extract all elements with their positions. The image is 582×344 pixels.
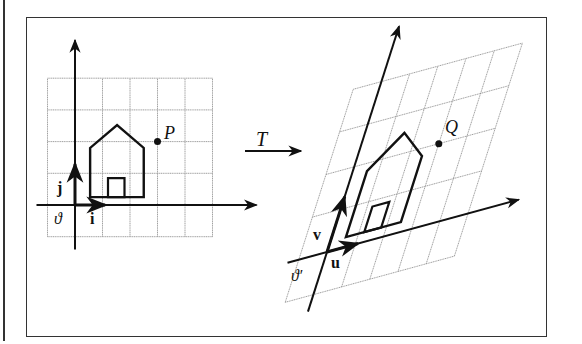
transform-label: T — [256, 129, 267, 149]
left-house-shape — [90, 125, 161, 197]
basis-v-label: v — [313, 227, 321, 243]
basis-i-label: i — [90, 211, 94, 227]
transformed-y-axis — [308, 26, 399, 311]
house-outline — [90, 125, 144, 197]
basis-j-label: j — [57, 180, 62, 196]
point-p-label: P — [164, 124, 175, 142]
grid-line — [312, 171, 481, 217]
grid-line — [454, 43, 522, 256]
door-outline — [364, 202, 389, 232]
left-grid — [48, 78, 213, 237]
grid-line — [370, 66, 438, 279]
point-p-dot — [154, 138, 161, 145]
point-q-dot — [435, 140, 442, 147]
door-outline — [108, 178, 125, 197]
right-grid — [285, 43, 522, 302]
basis-u-label: u — [331, 255, 340, 271]
transformed-origin-label: ϑ′ — [291, 268, 302, 284]
grid-line — [426, 51, 494, 264]
transformed-x-axis — [288, 200, 519, 263]
origin-label: ϑ — [54, 211, 62, 227]
grid-line — [398, 59, 466, 272]
point-q-label: Q — [445, 118, 458, 136]
coordinate-axes — [37, 26, 519, 311]
linear-transformation-diagram — [0, 0, 582, 344]
grid-line — [342, 74, 410, 287]
basis-vector-v — [327, 197, 345, 252]
